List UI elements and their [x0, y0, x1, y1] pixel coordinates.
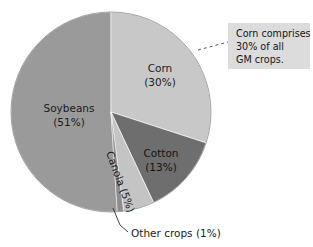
slice-label-cotton-name: Cotton	[143, 147, 178, 159]
corn-annotation-line-1: Corn comprises	[236, 28, 311, 39]
pie-chart-svg: Corn (30%) Soybeans (51%) Cotton (13%) C…	[0, 0, 313, 247]
pie-slices-group	[11, 12, 211, 212]
slice-label-cotton-value: (13%)	[145, 161, 177, 173]
slice-label-other-crops: Other crops (1%)	[131, 227, 221, 239]
corn-annotation-line-2: 30% of all	[236, 41, 284, 52]
pie-chart-figure: Corn (30%) Soybeans (51%) Cotton (13%) C…	[0, 0, 313, 247]
corn-annotation-line-3: GM crops.	[236, 54, 284, 65]
slice-label-soybeans-value: (51%)	[53, 116, 85, 128]
slice-label-soybeans-name: Soybeans	[44, 102, 95, 114]
slice-label-corn-value: (30%)	[144, 76, 176, 88]
slice-label-corn-name: Corn	[148, 62, 173, 74]
